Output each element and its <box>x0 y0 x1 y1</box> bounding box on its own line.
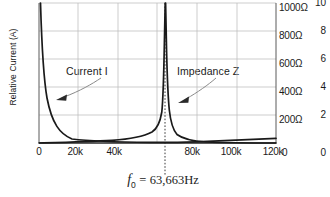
caption-f-subscript: 0 <box>131 180 136 190</box>
vertical-gridlines <box>78 3 237 143</box>
resonance-frequency-caption: f0 = 63,663Hz <box>0 172 326 190</box>
caption-value: 63,663Hz <box>150 173 199 187</box>
series-impedance-z-curve <box>41 3 277 142</box>
series-current-i-curve <box>39 3 276 143</box>
caption-equals: = <box>139 173 146 187</box>
axis-frame <box>39 3 276 143</box>
horizontal-gridlines <box>39 3 276 115</box>
annotation-current-leader <box>56 78 101 101</box>
